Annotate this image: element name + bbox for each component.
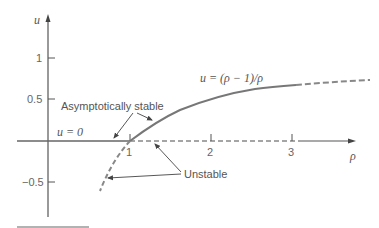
stable-arrows xyxy=(114,113,152,138)
curve-equation-label: u = (ρ − 1)/ρ xyxy=(200,71,263,85)
unstable-label: Unstable xyxy=(184,168,227,180)
rho-tick-1: 1 xyxy=(126,146,132,158)
rho-tick-2: 2 xyxy=(207,146,213,158)
curve-dashed-tail xyxy=(296,80,370,85)
u-axis-arrow-icon xyxy=(46,14,51,22)
u-tick-neg-0.5: −0.5 xyxy=(22,176,44,188)
bifurcation-diagram: u 1 0.5 −0.5 ρ 1 2 3 u = (ρ − 1)/ρ u = 0… xyxy=(0,0,379,228)
u-tick-0.5: 0.5 xyxy=(27,93,42,105)
rho-tick-3: 3 xyxy=(288,146,294,158)
equilibrium-curve xyxy=(100,80,370,191)
asymptotically-stable-label: Asymptotically stable xyxy=(61,100,164,112)
rho-axis-arrow-icon xyxy=(348,139,356,144)
u-tick-1: 1 xyxy=(36,52,42,64)
zero-line-label: u = 0 xyxy=(57,125,83,139)
unstable-arrows xyxy=(108,144,181,178)
u-axis-label: u xyxy=(34,13,40,27)
rho-axis-label: ρ xyxy=(349,149,356,163)
u-axis: u 1 0.5 −0.5 xyxy=(22,13,55,217)
curve-stable-branch xyxy=(130,85,296,141)
